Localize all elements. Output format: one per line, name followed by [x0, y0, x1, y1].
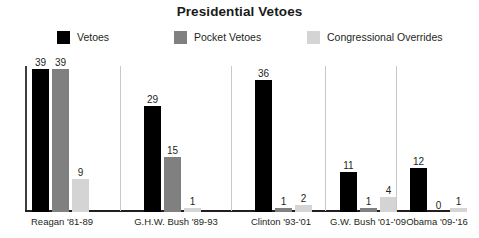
group-separator-line [396, 66, 397, 211]
bar-rect [52, 69, 69, 212]
bar-rect [275, 208, 292, 212]
bar-group-bars: 39399 [32, 68, 89, 212]
bar[interactable]: 29 [144, 68, 161, 212]
bar-value-label: 1 [456, 196, 462, 207]
bar-value-label: 1 [281, 196, 287, 207]
bar-group: 29151 [144, 66, 206, 212]
bar-rect [340, 172, 357, 212]
bar-value-label: 0 [436, 200, 442, 211]
bar-value-label: 29 [147, 94, 158, 105]
bar-group-bars: 1201 [410, 68, 467, 212]
bar[interactable]: 12 [410, 68, 427, 212]
bar[interactable]: 15 [164, 68, 181, 212]
bar-value-label: 36 [258, 68, 269, 79]
bar-value-label: 39 [35, 57, 46, 68]
bar-group: 39399 [32, 66, 94, 212]
bar-group: 1201 [410, 66, 472, 212]
bar-rect [255, 80, 272, 212]
bar-group: 1114 [340, 66, 402, 212]
group-separator-line [325, 66, 326, 211]
bar-rect [380, 197, 397, 212]
bar-value-label: 2 [301, 193, 307, 204]
bar-value-label: 4 [386, 185, 392, 196]
bar-value-label: 12 [413, 156, 424, 167]
bar[interactable]: 11 [340, 68, 357, 212]
bar[interactable]: 39 [32, 68, 49, 212]
bar-value-label: 1 [366, 196, 372, 207]
x-axis-label: Obama '09-'16 [337, 216, 479, 227]
presidential-vetoes-chart: Presidential Vetoes Vetoes Pocket Vetoes… [0, 0, 479, 238]
bar-value-label: 11 [343, 160, 353, 171]
bar[interactable]: 1 [184, 68, 201, 212]
bar-rect [32, 69, 49, 212]
group-separator-line [231, 66, 232, 211]
bar[interactable]: 1 [275, 68, 292, 212]
bar[interactable]: 36 [255, 68, 272, 212]
bar-group-bars: 29151 [144, 68, 201, 212]
bar-group: 3612 [255, 66, 317, 212]
bar-group-bars: 3612 [255, 68, 312, 212]
bar[interactable]: 39 [52, 68, 69, 212]
bar[interactable]: 2 [295, 68, 312, 212]
bar[interactable]: 1 [450, 68, 467, 212]
bar-value-label: 9 [78, 167, 84, 178]
bar[interactable]: 1 [360, 68, 377, 212]
plot-area: 39399Reagan '81-8929151G.H.W. Bush '89-9… [0, 0, 479, 238]
bar-rect [410, 168, 427, 212]
bar[interactable]: 9 [72, 68, 89, 212]
bar[interactable]: 4 [380, 68, 397, 212]
group-separator-line [120, 66, 121, 211]
bar-rect [72, 179, 89, 212]
bar-rect [184, 208, 201, 212]
bar-rect [164, 157, 181, 212]
y-axis-line [25, 66, 27, 212]
bar[interactable]: 0 [430, 68, 447, 212]
bar-rect [144, 106, 161, 212]
bar-group-bars: 1114 [340, 68, 397, 212]
bar-rect [360, 208, 377, 212]
bar-value-label: 39 [55, 57, 66, 68]
bar-value-label: 15 [167, 145, 178, 156]
bar-value-label: 1 [190, 196, 196, 207]
bar-rect [450, 208, 467, 212]
bar-rect [295, 205, 312, 212]
